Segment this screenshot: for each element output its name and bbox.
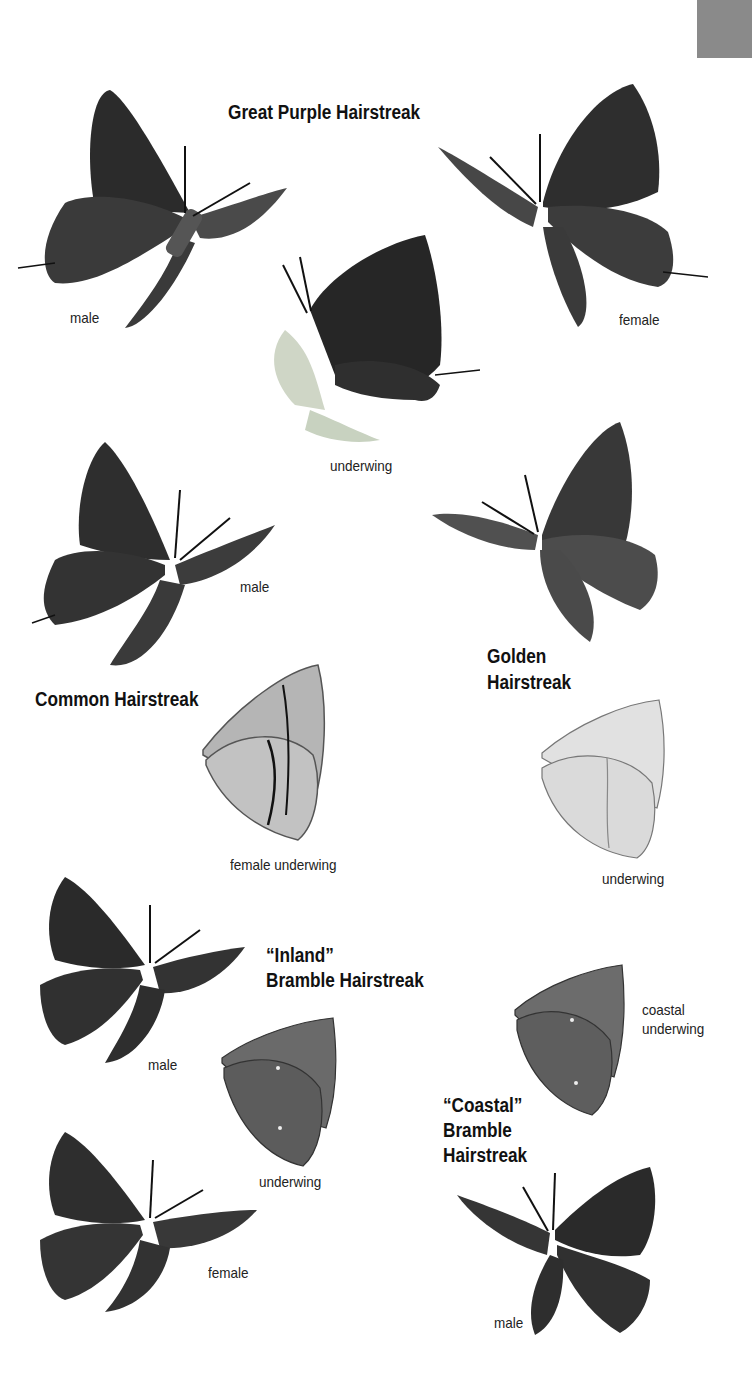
figure-label-underwing: underwing (330, 457, 392, 475)
figure-label-coastal-underwing-line-2: underwing (642, 1020, 704, 1038)
figure-label-underwing: underwing (259, 1173, 321, 1191)
butterfly-coastal-bramble-underwing (512, 965, 627, 1120)
figure-label-male: male (494, 1314, 523, 1332)
figure-label-female: female (619, 311, 660, 329)
butterfly-golden-underwing (537, 698, 667, 863)
figure-label-male: male (70, 309, 99, 327)
figure-label-male: male (240, 578, 269, 596)
figure-label-female: female (208, 1264, 249, 1282)
species-title-coastal-line-2: Bramble (443, 1117, 512, 1143)
butterfly-common-male (30, 440, 290, 680)
butterfly-golden-upperside (430, 420, 670, 650)
page-edge-tab (697, 0, 752, 58)
species-title-golden-line-1: Golden (487, 643, 546, 669)
species-title-common-hairstreak: Common Hairstreak (35, 686, 198, 712)
species-title-golden-line-2: Hairstreak (487, 669, 571, 695)
species-title-inland-line-2: Bramble Hairstreak (266, 967, 424, 993)
figure-label-underwing: underwing (602, 870, 664, 888)
butterfly-coastal-bramble-male (455, 1165, 660, 1340)
figure-label-male: male (148, 1056, 177, 1074)
figure-label-coastal-underwing-line-1: coastal (642, 1001, 685, 1019)
butterfly-common-female-underwing (198, 665, 328, 845)
butterfly-great-purple-male (15, 88, 295, 348)
species-title-inland-line-1: “Inland” (266, 942, 334, 968)
butterfly-inland-bramble-female (35, 1130, 260, 1315)
figure-label-female-underwing: female underwing (230, 856, 337, 874)
species-title-coastal-line-1: “Coastal” (443, 1092, 522, 1118)
butterfly-great-purple-female (438, 82, 718, 352)
